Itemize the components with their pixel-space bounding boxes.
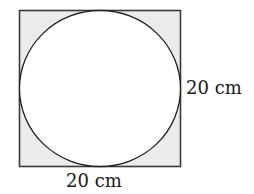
inscribed-circle <box>20 11 181 167</box>
side-length-label-bottom: 20 cm <box>66 172 122 190</box>
side-length-label-right: 20 cm <box>186 79 242 97</box>
